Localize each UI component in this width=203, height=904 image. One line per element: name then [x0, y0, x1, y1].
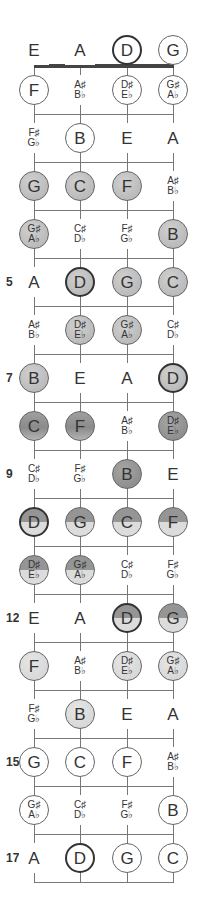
note-name: C — [167, 850, 179, 867]
note-name: G — [27, 754, 40, 771]
note-name: A — [28, 850, 39, 867]
note-name: G — [166, 42, 179, 59]
note-name: C — [167, 274, 179, 291]
note-label: A♯B♭ — [65, 651, 95, 681]
note-label: A♯B♭ — [158, 171, 188, 201]
scale-note-marker: D♯E♭ — [65, 315, 95, 345]
scale-note-marker: F — [19, 75, 49, 105]
enharmonic-note-name: A♯B♭ — [74, 80, 86, 100]
note-name: F — [75, 418, 85, 435]
note-name: B — [167, 226, 178, 243]
note-name: B — [28, 370, 39, 387]
fret-line-2 — [34, 162, 174, 163]
fret-line-13 — [34, 690, 174, 691]
note-label: A — [19, 843, 49, 873]
note-label: F♯G♭ — [112, 795, 142, 825]
note-label: A — [65, 603, 95, 633]
flat-name: G♭ — [28, 714, 41, 724]
fret-line-4 — [34, 258, 174, 259]
note-label: E — [65, 363, 95, 393]
flat-name: A♭ — [28, 234, 40, 244]
flat-name: D♭ — [28, 474, 40, 484]
note-name: F — [168, 514, 178, 531]
enharmonic-note-name: G♯A♭ — [167, 80, 180, 100]
note-name: B — [74, 130, 85, 147]
enharmonic-note-name: D♯E♭ — [121, 656, 133, 676]
scale-note-marker: G — [158, 35, 188, 65]
note-label: F♯G♭ — [158, 555, 188, 585]
note-name: D — [74, 274, 86, 291]
flat-name: A♭ — [121, 330, 133, 340]
note-name: G — [166, 610, 179, 627]
flat-name: E♭ — [121, 90, 133, 100]
note-name: D — [167, 370, 179, 387]
flat-name: A♭ — [28, 810, 40, 820]
scale-note-marker: B — [65, 123, 95, 153]
fret-line-8 — [34, 450, 174, 451]
scale-note-marker: F — [19, 651, 49, 681]
scale-note-marker: G♯A♭ — [19, 219, 49, 249]
flat-name: D♭ — [74, 810, 86, 820]
fret-line-11 — [34, 594, 174, 595]
flat-name: G♭ — [121, 234, 134, 244]
note-name: G — [27, 178, 40, 195]
scale-note-marker: G♯A♭ — [112, 315, 142, 345]
flat-name: D♭ — [121, 570, 133, 580]
flat-name: B♭ — [167, 186, 179, 196]
root-note-marker: D — [158, 363, 188, 393]
note-name: C — [121, 514, 133, 531]
enharmonic-note-name: G♯A♭ — [121, 320, 134, 340]
note-name: B — [74, 706, 85, 723]
root-note-marker: D — [65, 267, 95, 297]
flat-name: A♭ — [74, 570, 86, 580]
note-name: D — [121, 610, 133, 627]
note-name: A — [167, 706, 178, 723]
enharmonic-note-name: A♯B♭ — [167, 752, 179, 772]
scale-note-marker: G — [112, 267, 142, 297]
enharmonic-note-name: F♯G♭ — [28, 704, 41, 724]
note-label: A — [158, 123, 188, 153]
note-name: B — [121, 466, 132, 483]
flat-name: G♭ — [28, 138, 41, 148]
enharmonic-note-name: A♯B♭ — [28, 320, 40, 340]
note-name: G — [120, 850, 133, 867]
scale-note-marker: G♯A♭ — [158, 651, 188, 681]
note-label: A♯B♭ — [158, 747, 188, 777]
note-name: E — [167, 466, 178, 483]
note-label: A — [19, 267, 49, 297]
scale-note-marker: D♯E♭ — [158, 411, 188, 441]
scale-note-marker: B — [19, 363, 49, 393]
enharmonic-note-name: C♯D♭ — [74, 800, 86, 820]
enharmonic-note-name: G♯A♭ — [28, 224, 41, 244]
fret-line-5 — [34, 306, 174, 307]
flat-name: E♭ — [28, 570, 40, 580]
enharmonic-note-name: D♯E♭ — [121, 80, 133, 100]
scale-note-marker: B — [158, 219, 188, 249]
root-note-marker: D — [112, 603, 142, 633]
note-name: A — [74, 42, 85, 59]
fret-line-14 — [34, 738, 174, 739]
enharmonic-note-name: C♯D♭ — [74, 224, 86, 244]
flat-name: E♭ — [74, 330, 86, 340]
flat-name: B♭ — [74, 90, 86, 100]
note-label: C♯D♭ — [65, 795, 95, 825]
flat-name: G♭ — [74, 474, 87, 484]
scale-note-marker: G♯A♭ — [19, 795, 49, 825]
root-note-marker: D — [19, 507, 49, 537]
enharmonic-note-name: C♯D♭ — [28, 464, 40, 484]
note-name: B — [167, 802, 178, 819]
flat-name: B♭ — [121, 426, 133, 436]
note-name: A — [28, 274, 39, 291]
flat-name: E♭ — [167, 426, 179, 436]
note-label: E — [112, 699, 142, 729]
enharmonic-note-name: A♯B♭ — [74, 656, 86, 676]
note-name: G — [120, 274, 133, 291]
flat-name: B♭ — [28, 330, 40, 340]
enharmonic-note-name: C♯D♭ — [121, 560, 133, 580]
scale-note-marker: F — [158, 507, 188, 537]
note-name: F — [122, 754, 132, 771]
note-label: E — [19, 603, 49, 633]
root-note-marker: D — [112, 35, 142, 65]
note-label: C♯D♭ — [158, 315, 188, 345]
note-label: F♯G♭ — [65, 459, 95, 489]
